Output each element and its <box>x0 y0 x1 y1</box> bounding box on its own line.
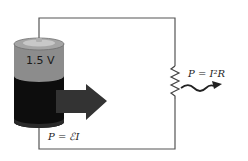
battery <box>14 38 64 128</box>
resistor <box>171 66 179 99</box>
source-power-equation: P = ℰI <box>48 131 79 142</box>
heat-dissipation-arrow <box>181 81 222 91</box>
circuit-diagram <box>0 0 248 161</box>
battery-voltage-label: 1.5 V <box>26 54 55 67</box>
resistor-power-equation: P = I²R <box>188 68 225 79</box>
